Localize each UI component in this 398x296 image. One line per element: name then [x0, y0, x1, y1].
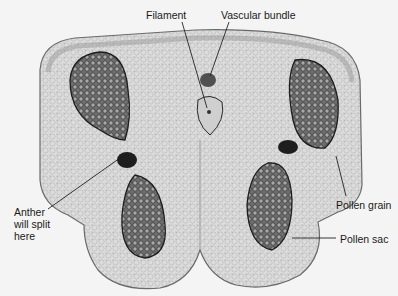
stomium-right	[278, 140, 298, 154]
label-pollen-sac: Pollen sac	[340, 233, 388, 245]
label-anther-split: Anther will split here	[14, 206, 50, 242]
vascular-bundle	[200, 73, 216, 87]
anther-cross-section	[0, 0, 398, 296]
label-vascular-bundle: Vascular bundle	[221, 9, 296, 21]
pollen-sac-lower-right	[247, 163, 292, 250]
stomium-left	[117, 152, 137, 168]
label-filament: Filament	[146, 9, 186, 21]
label-pollen-grain: Pollen grain	[336, 199, 391, 211]
